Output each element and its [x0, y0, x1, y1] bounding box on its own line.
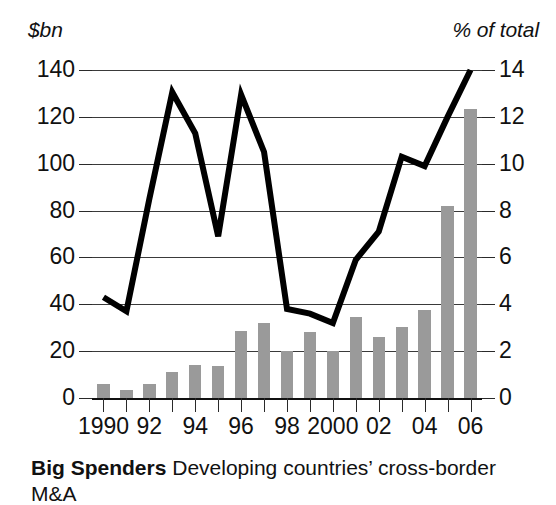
x-axis-tick-mark [195, 398, 196, 412]
right-axis-tick-label: 4 [499, 292, 512, 315]
right-tick-mark [482, 398, 495, 399]
x-axis-tick-mark [310, 398, 311, 412]
x-axis-tick-label: 98 [274, 415, 300, 438]
right-tick-mark [482, 351, 495, 352]
x-axis-tick-mark [379, 398, 380, 412]
right-tick-mark [482, 164, 495, 165]
right-axis-tick-label: 8 [499, 199, 512, 222]
x-axis-tick-label: 04 [412, 415, 438, 438]
right-tick-mark [482, 304, 495, 305]
left-axis-tick-label: 60 [49, 245, 75, 268]
x-axis-tick-mark [333, 398, 334, 412]
right-axis-tick-label: 14 [499, 58, 525, 81]
right-tick-mark [482, 70, 495, 71]
left-axis-tick-label: 100 [37, 152, 75, 175]
x-axis-tick-mark [356, 398, 357, 412]
caption-title: Big Spenders [31, 456, 166, 479]
x-axis-tick-mark [264, 398, 265, 412]
left-tick-mark [79, 117, 92, 118]
right-axis-tick-label: 0 [499, 386, 512, 409]
left-tick-mark [79, 164, 92, 165]
x-axis-tick-label: 92 [137, 415, 163, 438]
share-of-total-line [103, 70, 470, 323]
right-tick-mark [482, 211, 495, 212]
left-tick-mark [79, 398, 92, 399]
right-axis-tick-label: 2 [499, 339, 512, 362]
left-tick-mark [79, 351, 92, 352]
x-axis-tick-label: 96 [228, 415, 254, 438]
left-tick-mark [79, 304, 92, 305]
chart-figure: $bn % of total 0020240460680810010120121… [0, 0, 556, 505]
left-axis-unit-label: $bn [28, 18, 63, 42]
x-axis-tick-mark [103, 398, 104, 412]
x-axis-tick-mark [471, 398, 472, 412]
x-axis-tick-mark [448, 398, 449, 412]
caption: Big Spenders Developing countries’ cross… [31, 455, 531, 505]
x-axis-tick-mark [241, 398, 242, 412]
x-axis-tick-mark [402, 398, 403, 412]
x-axis-tick-label: 2000 [307, 415, 358, 438]
x-axis-tick-label: 06 [458, 415, 484, 438]
left-axis-tick-label: 80 [49, 199, 75, 222]
right-tick-mark [482, 257, 495, 258]
x-axis: 1990929496982000020406 [92, 398, 482, 458]
x-axis-tick-mark [425, 398, 426, 412]
left-axis-tick-label: 140 [37, 58, 75, 81]
right-axis-tick-label: 12 [499, 105, 525, 128]
left-tick-mark [79, 211, 92, 212]
left-tick-mark [79, 257, 92, 258]
x-axis-tick-label: 94 [182, 415, 208, 438]
x-axis-tick-label: 1990 [78, 415, 129, 438]
left-axis-tick-label: 40 [49, 292, 75, 315]
left-axis-tick-label: 0 [62, 386, 75, 409]
left-tick-mark [79, 70, 92, 71]
x-axis-tick-mark [287, 398, 288, 412]
line-series [92, 70, 482, 398]
plot-area: 00202404606808100101201214014 [92, 70, 482, 398]
right-tick-mark [482, 117, 495, 118]
right-axis-tick-label: 10 [499, 152, 525, 175]
left-axis-tick-label: 120 [37, 105, 75, 128]
x-axis-tick-mark [218, 398, 219, 412]
right-axis-unit-label: % of total [452, 18, 539, 42]
x-axis-tick-mark [126, 398, 127, 412]
x-axis-tick-label: 02 [366, 415, 392, 438]
x-axis-tick-mark [149, 398, 150, 412]
x-axis-tick-mark [172, 398, 173, 412]
left-axis-tick-label: 20 [49, 339, 75, 362]
right-axis-tick-label: 6 [499, 245, 512, 268]
